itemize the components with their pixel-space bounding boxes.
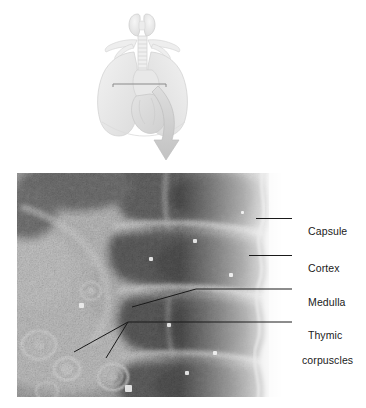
label-cortex: Cortex <box>296 249 340 287</box>
label-thymic-text-line2: corpuscles <box>296 354 353 367</box>
label-medulla: Medulla <box>296 283 346 321</box>
label-medulla-text: Medulla <box>308 296 345 308</box>
label-cortex-text: Cortex <box>308 262 340 274</box>
thymus-light-micrograph <box>17 173 281 397</box>
thorax-thymus-illustration <box>88 8 206 168</box>
label-capsule-text: Capsule <box>308 225 347 237</box>
figure-thymus: Capsule Cortex Medulla Thymic corpuscles <box>0 0 366 408</box>
thyroid-gland <box>129 14 155 36</box>
label-capsule: Capsule <box>296 212 347 250</box>
label-thymic-corpuscles: Thymic corpuscles <box>296 316 353 391</box>
label-thymic-text-line1: Thymic <box>308 329 342 341</box>
